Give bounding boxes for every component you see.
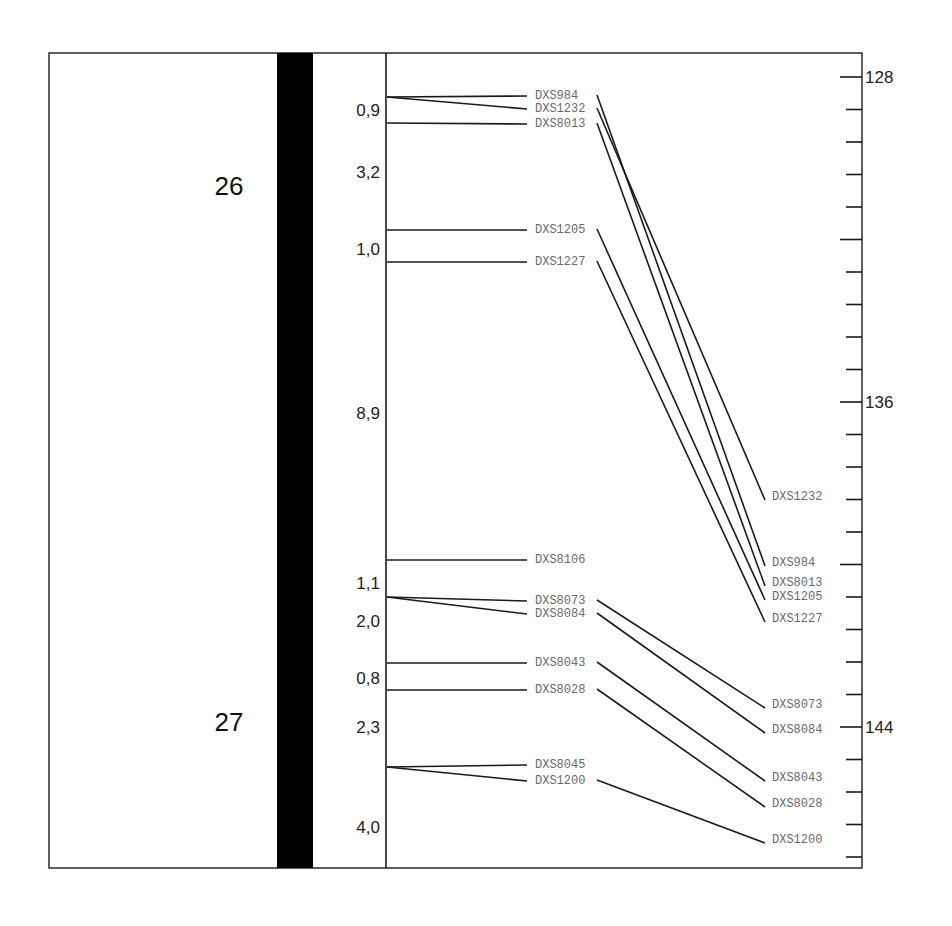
distance-label: 0,9 — [356, 101, 380, 120]
marker-connector-line — [387, 767, 527, 781]
left-marker-label: DXS984 — [535, 89, 578, 103]
band-label: 26 — [215, 171, 244, 201]
figure-frame — [49, 53, 862, 868]
distance-label: 4,0 — [356, 818, 380, 837]
marker-correspondence-line — [597, 613, 765, 733]
left-marker-label: DXS8084 — [535, 607, 585, 621]
left-marker-label: DXS8043 — [535, 656, 585, 670]
distance-label: 8,9 — [356, 404, 380, 423]
right-marker-label: DXS8084 — [772, 723, 822, 737]
position-axis-label: 136 — [865, 393, 893, 412]
right-marker-label: DXS1227 — [772, 612, 822, 626]
distance-label: 1,1 — [356, 574, 380, 593]
map-comparison-diagram: 26270,93,21,08,91,12,00,82,34,0DXS984DXS… — [0, 0, 952, 926]
left-marker-label: DXS8045 — [535, 758, 585, 772]
distance-label: 3,2 — [356, 163, 380, 182]
band-label: 27 — [215, 707, 244, 737]
left-marker-label: DXS8028 — [535, 683, 585, 697]
distance-label: 0,8 — [356, 669, 380, 688]
left-marker-label: DXS8013 — [535, 117, 585, 131]
distance-label: 2,0 — [356, 612, 380, 631]
left-marker-label: DXS1205 — [535, 223, 585, 237]
marker-correspondence-line — [597, 662, 765, 781]
position-axis-label: 144 — [865, 718, 893, 737]
left-marker-label: DXS8106 — [535, 553, 585, 567]
left-marker-label: DXS1227 — [535, 255, 585, 269]
marker-connector-line — [387, 96, 527, 97]
marker-correspondence-line — [597, 123, 765, 586]
right-marker-label: DXS1205 — [772, 590, 822, 604]
marker-connector-line — [387, 765, 527, 767]
marker-correspondence-line — [597, 95, 765, 566]
distance-label: 1,0 — [356, 240, 380, 259]
distance-label: 2,3 — [356, 718, 380, 737]
left-marker-label: DXS1200 — [535, 774, 585, 788]
right-marker-label: DXS984 — [772, 556, 815, 570]
left-marker-label: DXS1232 — [535, 102, 585, 116]
left-marker-label: DXS8073 — [535, 594, 585, 608]
genetic-map-figure: 26270,93,21,08,91,12,00,82,34,0DXS984DXS… — [0, 0, 952, 926]
marker-correspondence-line — [597, 600, 765, 708]
marker-connector-line — [387, 97, 527, 109]
right-marker-label: DXS1200 — [772, 833, 822, 847]
marker-connector-line — [387, 123, 527, 124]
chromosome-ideogram-bar — [277, 53, 313, 868]
right-marker-label: DXS8013 — [772, 576, 822, 590]
position-axis-label: 128 — [865, 68, 893, 87]
right-marker-label: DXS8043 — [772, 771, 822, 785]
right-marker-label: DXS1232 — [772, 490, 822, 504]
marker-correspondence-line — [597, 229, 765, 600]
right-marker-label: DXS8028 — [772, 797, 822, 811]
right-marker-label: DXS8073 — [772, 698, 822, 712]
